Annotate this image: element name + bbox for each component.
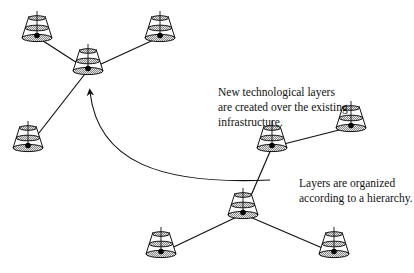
layered-cone-icon bbox=[13, 121, 43, 152]
caption-new-layers: New technological layers are created ove… bbox=[218, 85, 348, 130]
caption-line: are created over the existing bbox=[218, 100, 348, 115]
layered-cone-icon bbox=[319, 227, 349, 258]
layered-cone-icon bbox=[73, 44, 103, 75]
caption-line: New technological layers bbox=[218, 85, 348, 100]
nodes bbox=[13, 11, 366, 258]
caption-line: infrastructure. bbox=[218, 115, 348, 130]
caption-line: Layers are organized bbox=[299, 176, 413, 191]
caption-line: according to a hierarchy. bbox=[299, 191, 413, 206]
layered-cone-icon bbox=[146, 227, 176, 258]
layered-cone-icon bbox=[22, 11, 52, 42]
layered-cone-icon bbox=[145, 11, 175, 42]
layered-cone-icon bbox=[228, 188, 258, 219]
edge-line bbox=[243, 214, 334, 253]
caption-hierarchy: Layers are organized according to a hier… bbox=[299, 176, 413, 206]
layer-diagram bbox=[0, 0, 414, 273]
